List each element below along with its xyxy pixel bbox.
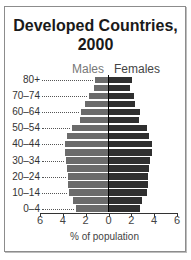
- bar-males: [94, 85, 108, 92]
- bar-males: [85, 101, 108, 108]
- bar-females: [109, 149, 152, 156]
- bar-females: [109, 157, 150, 164]
- leader-dots: [42, 144, 63, 145]
- bar-males: [80, 117, 109, 124]
- bar-males: [76, 205, 108, 212]
- leader-dots: [42, 193, 67, 194]
- leader-dots: [42, 112, 79, 113]
- leader-dots: [42, 177, 66, 178]
- leader-dots: [42, 161, 64, 162]
- bar-females: [109, 205, 140, 212]
- bar-females: [109, 85, 130, 92]
- x-tick-label: 6: [32, 214, 48, 226]
- bar-males: [67, 165, 108, 172]
- bar-females: [109, 133, 149, 140]
- bar-males: [65, 141, 108, 148]
- bar-males: [66, 157, 108, 164]
- y-tick-label: 60–64: [0, 107, 40, 117]
- bar-males: [73, 197, 108, 204]
- bar-males: [69, 189, 108, 196]
- leader-dots: [42, 80, 93, 81]
- y-tick-label: 30–34: [0, 156, 40, 166]
- leader-dots: [42, 96, 87, 97]
- y-tick-label: 0–4: [0, 204, 40, 214]
- x-tick-label: 4: [146, 214, 162, 226]
- bar-males: [67, 133, 108, 140]
- bar-males: [89, 93, 108, 100]
- bar-females: [109, 165, 149, 172]
- bar-males: [68, 181, 108, 188]
- y-tick-label: 70–74: [0, 91, 40, 101]
- bar-males: [65, 149, 108, 156]
- pyramid-plot: 0–410–1420–2430–3440–4450–5460–6470–7480…: [0, 0, 191, 260]
- y-tick-label: 40–44: [0, 139, 40, 149]
- x-tick-label: 6: [169, 214, 185, 226]
- leader-dots: [42, 128, 70, 129]
- bar-females: [109, 141, 152, 148]
- bar-females: [109, 125, 147, 132]
- bar-females: [109, 109, 140, 116]
- x-tick-label: 0: [101, 214, 117, 226]
- bar-females: [109, 77, 132, 84]
- bar-males: [95, 77, 108, 84]
- bar-females: [109, 93, 134, 100]
- bar-males: [81, 109, 108, 116]
- bar-males: [68, 173, 108, 180]
- y-tick-label: 20–24: [0, 172, 40, 182]
- bar-females: [109, 181, 148, 188]
- leader-dots: [42, 209, 74, 210]
- bar-females: [109, 173, 148, 180]
- x-tick-label: 2: [123, 214, 139, 226]
- bar-females: [109, 197, 142, 204]
- y-tick-label: 80+: [0, 75, 40, 85]
- center-axis-line: [108, 75, 109, 212]
- bar-males: [72, 125, 108, 132]
- bar-females: [109, 117, 139, 124]
- x-tick-label: 2: [78, 214, 94, 226]
- y-tick-label: 50–54: [0, 123, 40, 133]
- bar-females: [109, 189, 147, 196]
- y-tick-label: 10–14: [0, 188, 40, 198]
- x-axis-label: % of population: [0, 231, 191, 242]
- bar-females: [109, 101, 135, 108]
- x-tick-label: 4: [55, 214, 71, 226]
